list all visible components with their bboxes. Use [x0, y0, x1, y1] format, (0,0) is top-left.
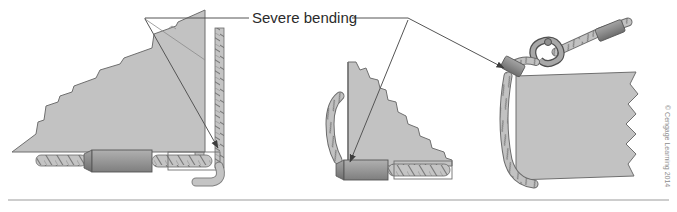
ferrule-middle — [336, 160, 344, 180]
severe-bending-label: Severe bending — [252, 9, 357, 26]
leader-line-right — [352, 18, 504, 68]
shackle-pin-right — [545, 39, 552, 46]
load-block-middle — [348, 62, 452, 166]
rope-horizontal-left — [152, 152, 220, 170]
load-block-left — [12, 10, 205, 152]
rope-tail-left — [36, 155, 86, 166]
right-sling-diagram — [500, 19, 638, 184]
sleeve-left — [92, 150, 152, 172]
rope-horizontal-middle — [388, 161, 452, 179]
copyright-credit: © Cengage Learning 2014 — [663, 105, 671, 187]
ferrule-upper-right — [595, 19, 626, 42]
ferrule-left — [84, 150, 92, 172]
middle-sling-diagram — [330, 62, 452, 180]
illustration-canvas: Severe bending © Cengage Learning 2014 — [0, 0, 677, 212]
load-block-right — [516, 72, 638, 180]
figure-container: Severe bending © Cengage Learning 2014 — [0, 0, 677, 212]
rope-vertical-outer-left — [215, 28, 224, 168]
sleeve-middle — [344, 160, 388, 180]
left-sling-diagram — [12, 10, 224, 182]
